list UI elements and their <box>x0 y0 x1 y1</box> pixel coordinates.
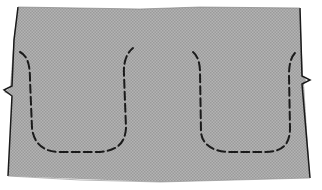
pattern-svg <box>0 0 322 190</box>
fabric-panel <box>4 7 310 182</box>
pattern-diagram <box>0 0 322 190</box>
